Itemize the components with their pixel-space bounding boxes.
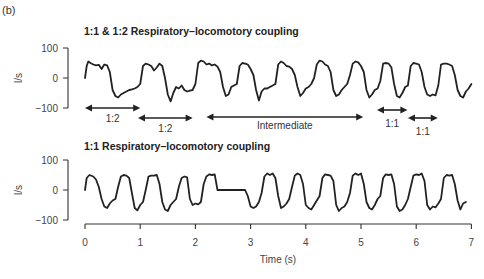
bottom-y-tick-100: 100	[41, 155, 58, 166]
x-tick-label: 3	[248, 237, 254, 248]
arrowhead-icon	[186, 115, 193, 122]
bottom-y-axis	[63, 160, 68, 220]
x-tick-label: 0	[82, 237, 88, 248]
arrowhead-icon	[408, 115, 415, 122]
top-y-axis	[63, 48, 68, 108]
bottom-panel-title: 1:1 Respiratory–locomotory coupling	[84, 140, 270, 152]
annotation-label: 1:1	[385, 118, 399, 129]
top-y-tick-100: 100	[41, 43, 58, 54]
bottom-y-axis-label: l/s	[13, 185, 24, 195]
x-tick-label: 1	[137, 237, 143, 248]
top-y-axis-label: l/s	[13, 73, 24, 83]
annotation-label: 1:2	[158, 123, 172, 134]
x-axis-label: Time (s)	[260, 254, 296, 265]
figure: (b) 1:1 & 1:2 Respiratory–locomotory cou…	[0, 0, 484, 279]
arrowhead-icon	[377, 107, 384, 114]
x-tick-label: 4	[303, 237, 309, 248]
x-tick-label: 6	[413, 237, 419, 248]
annotation-label: 1:1	[416, 126, 430, 137]
arrowhead-icon	[138, 115, 145, 122]
arrowhead-icon	[133, 105, 140, 112]
top-panel-title: 1:1 & 1:2 Respiratory–locomotory couplin…	[84, 25, 299, 37]
top-panel: 1:1 & 1:2 Respiratory–locomotory couplin…	[13, 25, 471, 137]
x-tick-label: 5	[358, 237, 364, 248]
panel-label: (b)	[2, 4, 15, 16]
x-tick-label: 7	[469, 237, 475, 248]
bottom-airflow-trace	[85, 174, 466, 212]
annotation-label: 1:2	[106, 113, 120, 124]
bottom-panel: 1:1 Respiratory–locomotory coupling l/s …	[13, 140, 475, 265]
top-y-tick-0: 0	[52, 73, 58, 84]
arrowhead-icon	[356, 114, 363, 121]
arrowhead-icon	[206, 114, 213, 121]
arrowhead-icon	[400, 107, 407, 114]
x-tick-label: 2	[193, 237, 199, 248]
x-axis	[85, 224, 471, 229]
coupling-annotations: 1:21:2Intermediate1:11:1	[85, 105, 438, 138]
arrowhead-icon	[431, 115, 438, 122]
arrowhead-icon	[85, 105, 92, 112]
top-airflow-trace	[85, 61, 471, 102]
bottom-y-tick-0: 0	[52, 185, 58, 196]
top-y-tick-minus100: −100	[35, 103, 58, 114]
bottom-y-tick-minus100: −100	[35, 215, 58, 226]
annotation-label: Intermediate	[257, 120, 313, 131]
x-tick-labels: 01234567	[82, 237, 474, 248]
